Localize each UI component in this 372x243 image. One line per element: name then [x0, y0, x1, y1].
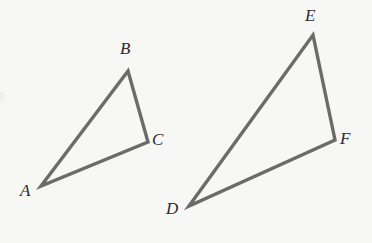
vertex-label-e: E — [305, 7, 315, 24]
vertex-label-b: B — [120, 40, 130, 57]
triangle-def — [189, 35, 335, 206]
vertex-label-a: A — [20, 182, 30, 199]
triangle-abc — [41, 71, 148, 186]
vertex-label-f: F — [340, 130, 350, 147]
vertex-label-d: D — [166, 200, 178, 217]
triangles-canvas — [0, 0, 372, 243]
vertex-label-c: C — [152, 131, 163, 148]
geometry-figure: A B C D E F — [0, 0, 372, 243]
